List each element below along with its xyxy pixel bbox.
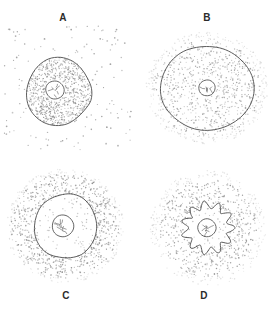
panel-b-drawing	[137, 0, 273, 156]
panel-d: D	[137, 156, 273, 311]
panel-c-label: C	[56, 290, 76, 301]
panel-d-drawing	[137, 156, 273, 311]
panel-a-drawing	[0, 0, 136, 156]
panel-d-label: D	[194, 290, 214, 301]
panel-b: B	[137, 0, 273, 156]
cell-tonicity-figure: A B C D	[0, 0, 273, 311]
panel-b-label: B	[197, 12, 217, 23]
panel-c-drawing	[0, 156, 136, 311]
panel-c: C	[0, 156, 136, 311]
panel-a: A	[0, 0, 136, 156]
panel-a-label: A	[53, 12, 73, 23]
